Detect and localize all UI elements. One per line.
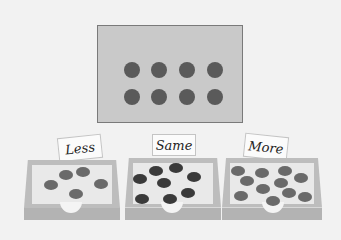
counter-dot [124, 89, 140, 105]
chip [163, 194, 177, 204]
chip [169, 163, 183, 173]
counter-dot [179, 89, 195, 105]
chip [181, 188, 195, 198]
chip [59, 170, 73, 180]
chip [240, 176, 254, 186]
counting-display [97, 25, 243, 123]
chip [282, 188, 296, 198]
counter-dot [151, 89, 167, 105]
bin-less[interactable] [24, 160, 120, 220]
counter-dot [207, 89, 223, 105]
chip [187, 172, 201, 182]
counter-dot [151, 62, 167, 78]
label-less: Less [57, 134, 103, 162]
chip [234, 191, 248, 201]
label-more: More [243, 133, 289, 161]
counter-dot [124, 62, 140, 78]
chip [94, 179, 108, 189]
bin-same[interactable] [125, 158, 221, 220]
chip [256, 184, 270, 194]
chip [231, 166, 245, 176]
bin-more[interactable] [222, 158, 322, 220]
chip [157, 178, 171, 188]
chip [44, 180, 58, 190]
chip [133, 174, 147, 184]
label-same: Same [152, 134, 196, 156]
counter-dot [179, 62, 195, 78]
chip [298, 192, 312, 202]
chip [294, 173, 308, 183]
counter-dot [207, 62, 223, 78]
chip [266, 196, 280, 206]
chip [76, 167, 90, 177]
chip [255, 168, 269, 178]
chip [69, 189, 83, 199]
chip [149, 166, 163, 176]
chip [274, 178, 288, 188]
chip [135, 194, 149, 204]
chip [278, 166, 292, 176]
